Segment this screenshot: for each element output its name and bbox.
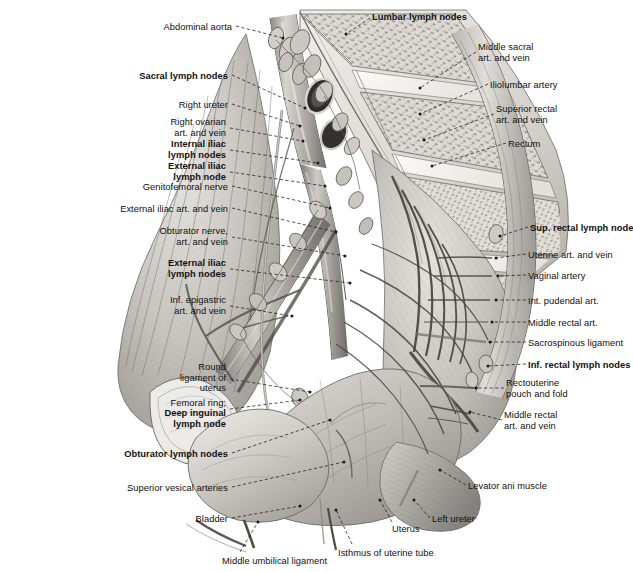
leader-dot-inf-rectal-lymph-nodes — [487, 365, 490, 368]
leader-dot-rectum — [431, 165, 434, 168]
label-isthmus-of-uterine-tube: Isthmus of uterine tube — [338, 548, 434, 559]
label-inf-epigastric-art-vein: Inf. epigastric art. and vein — [170, 295, 226, 316]
leader-dot-external-iliac-lymph-nodes — [349, 282, 352, 285]
leader-dot-obturator-nerve-art-vein — [344, 255, 347, 258]
label-middle-rectal-art-and-vein: Middle rectal art. and vein — [504, 410, 557, 431]
leader-dot-superior-vesical-arteries — [343, 461, 346, 464]
leader-dot-abdominal-aorta — [282, 37, 285, 40]
label-right-ovarian-art-vein: Right ovarian art. and vein — [171, 117, 226, 138]
label-middle-umbilical-ligament: Middle umbilical ligament — [222, 556, 327, 567]
label-middle-sacral-art-vein: Middle sacral art. and vein — [478, 42, 533, 63]
leader-dot-isthmus-of-uterine-tube — [335, 509, 338, 512]
label-obturator-nerve-art-vein: Obturator nerve, art. and vein — [160, 226, 229, 247]
label-uterus: Uterus — [392, 524, 420, 535]
label-vaginal-artery: Vaginal artery — [528, 271, 585, 282]
leader-middle-umbilical-ligament — [240, 522, 258, 552]
leader-dot-middle-umbilical-ligament — [257, 521, 260, 524]
leader-dot-iliolumbar-artery — [419, 113, 422, 116]
leader-dot-vaginal-artery — [497, 275, 500, 278]
leader-dot-bladder — [299, 505, 302, 508]
leader-dot-femoral-ring-deep-inguinal — [299, 399, 302, 402]
label-inf-rectal-lymph-nodes: Inf. rectal lymph nodes — [528, 360, 630, 371]
label-rectum: Rectum — [508, 139, 540, 150]
label-right-ureter: Right ureter — [179, 100, 228, 111]
leader-dot-lumbar-lymph-nodes — [345, 33, 348, 36]
leader-dot-right-ovarian-art-vein — [302, 140, 305, 143]
label-sacrospinous-ligament: Sacrospinous ligament — [528, 338, 623, 349]
leader-dot-external-iliac-art-vein — [335, 231, 338, 234]
leader-dot-sup-rectal-lymph-node — [499, 235, 502, 238]
leader-dot-int-pudendal-art — [495, 299, 498, 302]
leader-dot-sacrospinous-ligament — [489, 341, 492, 344]
leader-dot-rectouterine-pouch-and-fold — [475, 387, 478, 390]
label-lumbar-lymph-nodes: Lumbar lymph nodes — [372, 12, 467, 23]
leader-dot-middle-rectal-art — [491, 321, 494, 324]
label-levator-ani-muscle: Levator ani muscle — [468, 481, 547, 492]
label-round-ligament-of-uterus: Round ligament of uterus — [180, 362, 226, 394]
leader-dot-inf-epigastric-art-vein — [291, 315, 294, 318]
label-int-pudendal-art: Int. pudendal art. — [528, 296, 599, 307]
leader-dot-superior-rectal-art-vein — [423, 139, 426, 142]
label-external-iliac-lymph-nodes: External iliac lymph nodes — [168, 258, 226, 279]
label-superior-vesical-arteries: Superior vesical arteries — [127, 483, 228, 494]
label-sacral-lymph-nodes: Sacral lymph nodes — [139, 71, 228, 82]
anatomical-plate: Abdominal aortaSacral lymph nodesRight u… — [0, 0, 633, 572]
label-genitofemoral-nerve: Genitofemoral nerve — [143, 182, 228, 193]
label-internal-iliac-lymph-nodes: Internal iliac lymph nodes — [168, 139, 226, 160]
label-left-ureter: Left ureter — [432, 514, 475, 525]
leader-dot-sacral-lymph-nodes — [304, 107, 307, 110]
label-superior-rectal-art-vein: Superior rectal art. and vein — [496, 104, 557, 125]
leader-dot-left-ureter — [413, 499, 416, 502]
leader-dot-levator-ani-muscle — [439, 469, 442, 472]
label-sup-rectal-lymph-node: Sup. rectal lymph node — [530, 223, 633, 234]
leader-dot-uterine-art-and-vein — [495, 257, 498, 260]
leader-dot-right-ureter — [299, 125, 302, 128]
label-rectouterine-pouch-and-fold: Rectouterine pouch and fold — [506, 378, 568, 399]
label-femoral-ring-deep-inguinal: Femoral ring; — [171, 398, 226, 409]
leader-dot-middle-rectal-art-and-vein — [469, 411, 472, 414]
leader-dot-external-iliac-lymph-node — [324, 185, 327, 188]
label-abdominal-aorta: Abdominal aorta — [164, 22, 232, 33]
label-obturator-lymph-nodes: Obturator lymph nodes — [124, 449, 228, 460]
label-external-iliac-art-vein: External iliac art. and vein — [120, 204, 228, 215]
label-bladder: Bladder — [196, 514, 228, 525]
label-middle-rectal-art: Middle rectal art. — [528, 318, 598, 329]
label-iliolumbar-artery: Iliolumbar artery — [490, 80, 558, 91]
leader-dot-uterus — [379, 499, 382, 502]
leader-dot-genitofemoral-nerve — [329, 207, 332, 210]
leader-dot-middle-sacral-art-vein — [419, 87, 422, 90]
label-uterine-art-and-vein: Uterine art. and vein — [528, 250, 613, 261]
label-external-iliac-lymph-node: External iliac lymph node — [168, 161, 226, 182]
leader-dot-obturator-lymph-nodes — [329, 419, 332, 422]
leader-dot-internal-iliac-lymph-nodes — [317, 162, 320, 165]
label-deep-inguinal-lymph-node: Deep inguinal lymph node — [164, 408, 226, 429]
leader-dot-round-ligament-of-uterus — [309, 391, 312, 394]
